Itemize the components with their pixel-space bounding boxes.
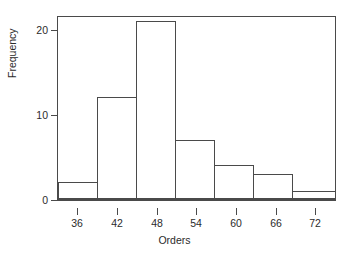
histogram-bar xyxy=(175,140,215,200)
plot-area xyxy=(58,17,335,199)
x-axis: 36 42 48 54 60 66 72 Orders xyxy=(0,200,349,265)
x-tick-mark-42 xyxy=(117,208,118,215)
histogram-bar xyxy=(97,97,137,199)
x-tick-mark-48 xyxy=(157,208,158,215)
x-axis-line xyxy=(57,200,336,201)
x-tick-mark-36 xyxy=(77,208,78,215)
histogram-bar xyxy=(58,182,98,199)
histogram-chart: 0 10 20 Frequency 36 42 48 54 60 xyxy=(0,0,349,265)
x-tick-label-60: 60 xyxy=(230,218,242,229)
x-tick-label-54: 54 xyxy=(190,218,202,229)
x-axis-title: Orders xyxy=(0,235,349,246)
x-tick-label-42: 42 xyxy=(111,218,123,229)
x-tick-mark-54 xyxy=(196,208,197,215)
x-tick-mark-72 xyxy=(315,208,316,215)
histogram-bar xyxy=(214,165,254,199)
y-axis-title: Frequency xyxy=(7,28,18,78)
x-tick-label-66: 66 xyxy=(270,218,282,229)
y-tick-label-10: 10 xyxy=(36,110,48,121)
histogram-bar xyxy=(136,21,176,200)
x-tick-mark-60 xyxy=(236,208,237,215)
x-tick-label-36: 36 xyxy=(71,218,83,229)
histogram-bar xyxy=(292,191,336,200)
x-tick-label-48: 48 xyxy=(151,218,163,229)
x-tick-mark-66 xyxy=(276,208,277,215)
histogram-bar xyxy=(253,174,293,200)
x-tick-label-72: 72 xyxy=(309,218,321,229)
plot-frame xyxy=(57,16,336,200)
y-tick-label-20: 20 xyxy=(36,25,48,36)
